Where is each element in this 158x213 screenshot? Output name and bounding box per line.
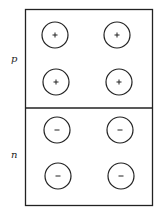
negative-carrier	[44, 117, 70, 143]
n-region-label: n	[11, 149, 17, 160]
p-region-label: p	[11, 53, 17, 64]
negative-carrier	[107, 117, 133, 143]
negative-carrier	[45, 163, 71, 189]
positive-carrier	[42, 22, 68, 48]
positive-carrier	[43, 69, 69, 95]
pn-junction-diagram	[0, 0, 158, 213]
negative-carrier	[108, 163, 134, 189]
positive-carrier	[106, 69, 132, 95]
positive-carrier	[104, 22, 130, 48]
